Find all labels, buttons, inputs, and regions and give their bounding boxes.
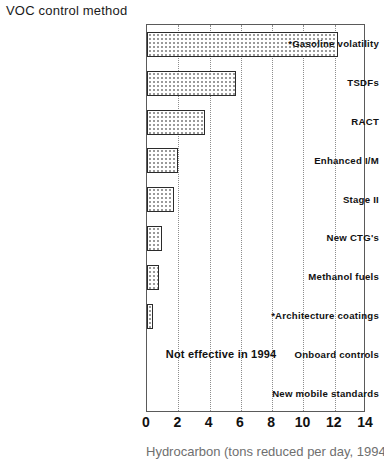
x-tick-label: 10 xyxy=(295,414,311,430)
chart-title: VOC control method xyxy=(6,3,127,18)
bar xyxy=(147,226,162,251)
x-axis-tick-labels: 02468101214 xyxy=(146,414,365,434)
bar xyxy=(147,110,205,135)
category-label: RACT xyxy=(240,116,384,127)
x-tick-label: 8 xyxy=(267,414,275,430)
x-tick-label: 6 xyxy=(236,414,244,430)
bar xyxy=(147,71,236,96)
x-axis-title: Hydrocarbon (tons reduced per day, 1994) xyxy=(146,444,384,460)
x-tick-label: 12 xyxy=(326,414,342,430)
category-label: *Architecture coatings xyxy=(240,310,384,321)
category-label: Methanol fuels xyxy=(240,271,384,282)
category-label: TSDFs xyxy=(240,77,384,88)
category-label: New mobile standards xyxy=(240,387,384,398)
x-tick-label: 14 xyxy=(357,414,373,430)
x-tick-label: 2 xyxy=(173,414,181,430)
bar xyxy=(147,265,159,290)
category-label: *Gasoline volatility xyxy=(240,38,384,49)
category-label: Enhanced I/M xyxy=(240,154,384,165)
x-tick-label: 0 xyxy=(142,414,150,430)
category-label: New CTG's xyxy=(240,232,384,243)
x-tick-label: 4 xyxy=(205,414,213,430)
category-label: Onboard controls xyxy=(240,348,384,359)
bar xyxy=(147,187,174,212)
bar xyxy=(147,304,153,329)
category-label: Stage II xyxy=(240,193,384,204)
bar xyxy=(147,148,178,173)
